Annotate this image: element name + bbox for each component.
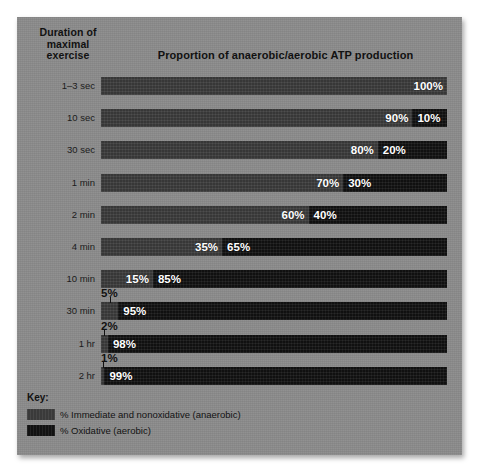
bar-row: 10 min15%85% [17,270,462,288]
bar-track: 90%10% [101,109,447,127]
bar-row: 30 sec80%20% [17,141,462,159]
callout-leader-line [104,330,105,336]
bar-row: 4 min35%65% [17,238,462,256]
bar-track: 60%40% [101,206,447,224]
bar-value-anaerobic: 90% [385,112,408,124]
row-label-1-min: 1 min [17,174,95,192]
bar-segment-aerobic: 65% [222,238,447,256]
row-label-10-min: 10 min [17,270,95,288]
bar-row: 1 hr98% [17,335,462,353]
row-label-2-hr: 2 hr [17,367,95,385]
bar-track: 100% [101,77,447,95]
bar-track: 98% [101,335,447,353]
bar-track: 15%85% [101,270,447,288]
legend-item: % Oxidative (aerobic) [27,425,447,436]
bar-value-anaerobic: 15% [126,273,149,285]
legend: Key: % Immediate and nonoxidative (anaer… [27,392,447,441]
legend-swatch-aerobic [27,425,55,436]
legend-title: Key: [27,392,447,403]
legend-swatch-anaerobic [27,409,55,420]
bar-segment-anaerobic [101,302,118,320]
callout-leader-line [110,297,111,303]
bar-value-aerobic: 10% [417,112,440,124]
callout-leader-line [103,362,104,368]
bar-segment-anaerobic: 60% [101,206,309,224]
bar-segment-aerobic: 40% [309,206,447,224]
row-label-2-min: 2 min [17,206,95,224]
bar-value-aerobic: 20% [383,144,406,156]
bar-value-aerobic: 30% [348,177,371,189]
bar-segment-anaerobic: 35% [101,238,222,256]
bar-value-anaerobic: 100% [414,80,443,92]
bar-track: 95% [101,302,447,320]
row-label-30-sec: 30 sec [17,141,95,159]
bar-segment-aerobic: 10% [412,109,447,127]
legend-items: % Immediate and nonoxidative (anaerobic)… [27,409,447,436]
bar-row: 1–3 sec100% [17,77,462,95]
row-label-4-min: 4 min [17,238,95,256]
bar-segment-aerobic: 85% [153,270,447,288]
row-label-30-min: 30 min [17,302,95,320]
bar-segment-aerobic: 30% [343,174,447,192]
bar-segment-anaerobic: 70% [101,174,343,192]
bar-track: 99% [101,367,447,385]
bar-value-aerobic: 85% [158,273,181,285]
bar-row: 2 hr99% [17,367,462,385]
bar-value-anaerobic: 80% [351,144,374,156]
bar-segment-anaerobic: 15% [101,270,153,288]
figure-panel: Duration ofmaximalexercise Proportion of… [17,17,462,455]
bar-segment-anaerobic [101,335,108,353]
bar-row: 30 min95% [17,302,462,320]
legend-label: % Oxidative (aerobic) [60,425,151,436]
bar-value-anaerobic: 70% [316,177,339,189]
bar-value-aerobic: 95% [123,305,146,317]
bar-segment-aerobic: 99% [104,367,447,385]
bar-track: 80%20% [101,141,447,159]
row-label-10-sec: 10 sec [17,109,95,127]
row-label-1-3-sec: 1–3 sec [17,77,95,95]
bar-segment-anaerobic: 90% [101,109,412,127]
bar-row: 10 sec90%10% [17,109,462,127]
bar-row: 1 min70%30% [17,174,462,192]
bar-value-anaerobic: 60% [282,209,305,221]
legend-item: % Immediate and nonoxidative (anaerobic) [27,409,447,420]
bar-row: 2 min60%40% [17,206,462,224]
bar-track: 35%65% [101,238,447,256]
legend-label: % Immediate and nonoxidative (anaerobic) [60,409,241,420]
bar-value-aerobic: 65% [227,241,250,253]
bar-value-aerobic: 98% [113,338,136,350]
bar-segment-aerobic: 95% [118,302,447,320]
bar-value-aerobic: 40% [314,209,337,221]
bar-value-anaerobic: 35% [195,241,218,253]
plot-area: 1–3 sec100%10 sec90%10%30 sec80%20%1 min… [17,17,462,455]
row-label-1-hr: 1 hr [17,335,95,353]
bar-track: 70%30% [101,174,447,192]
bar-value-aerobic: 99% [109,370,132,382]
bar-segment-aerobic: 20% [378,141,447,159]
bar-segment-aerobic: 98% [108,335,447,353]
bar-segment-anaerobic: 100% [101,77,447,95]
bar-segment-anaerobic: 80% [101,141,378,159]
